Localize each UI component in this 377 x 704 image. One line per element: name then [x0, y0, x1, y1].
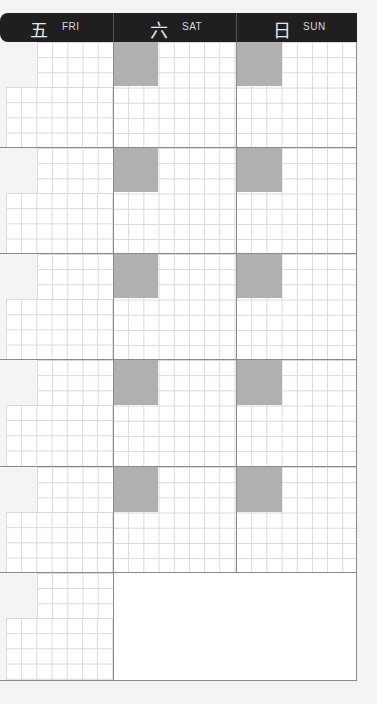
fri-row1-lower-grid[interactable] [6, 87, 113, 147]
sat-label: SAT [182, 21, 202, 32]
bottom-border [0, 680, 357, 681]
fri-row5-upper-grid[interactable] [37, 467, 113, 512]
fri-row3-upper-grid[interactable] [37, 254, 113, 299]
fri-row4-upper-grid[interactable] [37, 360, 113, 405]
fri-row2-upper-grid[interactable] [37, 148, 113, 193]
sun-label: SUN [303, 21, 326, 32]
sat-row5-block [113, 467, 158, 512]
weekend-notes-box[interactable] [113, 573, 356, 680]
sun-row1-block [236, 42, 282, 86]
sun-row3-block [236, 254, 282, 298]
fri-row5-lower-grid[interactable] [6, 512, 113, 572]
day-header-bar: 五 FRI 六 SAT 日 SUN [0, 13, 357, 42]
fri-row6-upper-grid[interactable] [37, 573, 113, 618]
sat-kanji: 六 [150, 16, 168, 42]
fri-row4-lower-grid[interactable] [6, 405, 113, 466]
fri-row6-lower-grid[interactable] [6, 618, 113, 680]
divider-fri-sat [113, 42, 114, 680]
row-divider-4 [0, 466, 357, 467]
fri-kanji: 五 [30, 16, 48, 42]
row-divider-3 [0, 359, 357, 360]
sun-row2-block [236, 148, 282, 192]
right-border [356, 42, 357, 681]
row-divider-2 [0, 253, 357, 254]
sat-row2-block [113, 148, 158, 192]
sun-row5-block [236, 467, 282, 512]
header-fri: 五 FRI [0, 13, 114, 42]
divider-sat-sun [236, 42, 237, 573]
header-sat: 六 SAT [113, 13, 237, 42]
planner-sheet [0, 42, 357, 681]
sat-row1-block [113, 42, 158, 86]
sun-row4-block [236, 360, 282, 405]
fri-label: FRI [62, 21, 80, 32]
header-sun: 日 SUN [236, 13, 357, 42]
row-divider-1 [0, 147, 357, 148]
sun-kanji: 日 [273, 16, 291, 42]
fri-row3-lower-grid[interactable] [6, 299, 113, 359]
fri-row1-upper-grid[interactable] [37, 42, 113, 87]
fri-row2-lower-grid[interactable] [6, 193, 113, 253]
sat-row4-block [113, 360, 158, 405]
row-divider-5 [0, 572, 357, 573]
sat-row3-block [113, 254, 158, 298]
